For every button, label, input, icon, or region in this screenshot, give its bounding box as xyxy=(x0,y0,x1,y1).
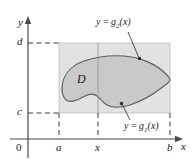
tick-label-d: d xyxy=(17,36,23,47)
upper-curve-eq: = xyxy=(100,16,111,27)
x-axis-label: x xyxy=(181,141,186,152)
lower-curve-label: y = g1(x) xyxy=(124,121,159,134)
tick-label-x: x xyxy=(95,142,100,153)
figure-container: y x 0 d c a x b D y = g2(x) y = g1(x) xyxy=(0,0,192,164)
region-label-d: D xyxy=(77,73,86,85)
origin-label: 0 xyxy=(16,142,22,153)
tick-label-c: c xyxy=(17,106,22,117)
leader-dot-upper xyxy=(138,57,141,60)
lower-curve-eq: = xyxy=(128,120,139,131)
leader-dot-lower xyxy=(120,102,123,105)
tick-label-a: a xyxy=(56,142,62,153)
lower-curve-arg: (x) xyxy=(148,120,159,131)
upper-curve-arg: (x) xyxy=(120,16,131,27)
tick-label-b: b xyxy=(167,142,173,153)
y-axis-label: y xyxy=(18,17,23,28)
y-axis-arrowhead xyxy=(25,16,31,24)
upper-curve-label: y = g2(x) xyxy=(96,17,131,30)
